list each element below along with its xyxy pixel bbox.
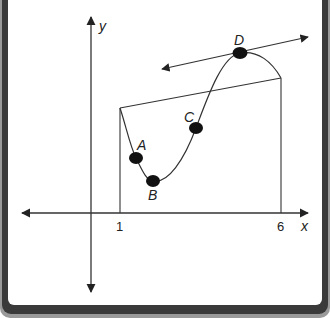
- tick-label-1: 1: [116, 219, 123, 234]
- point-label-b: B: [148, 187, 157, 203]
- point-label-c: C: [184, 109, 195, 125]
- tick-label-6: 6: [277, 219, 284, 234]
- point-d: [233, 47, 248, 59]
- point-label-a: A: [136, 137, 146, 153]
- point-b: [146, 175, 160, 187]
- point-label-d: D: [234, 32, 244, 48]
- function-graph-diagram: y x 1 6 A B C D: [0, 0, 330, 318]
- point-a: [129, 152, 143, 164]
- secant-line: [120, 78, 281, 108]
- function-curve: [120, 53, 281, 182]
- y-axis-label: y: [98, 18, 107, 34]
- x-axis-label: x: [300, 218, 309, 234]
